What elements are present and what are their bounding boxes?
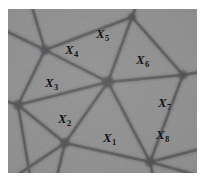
micrograph-image-area: X1X2X3X4X5X6X7X8 bbox=[8, 9, 197, 173]
film-grain-texture bbox=[8, 9, 197, 173]
grain-micrograph-figure: X1X2X3X4X5X6X7X8 bbox=[0, 0, 211, 178]
grain-boundary-network bbox=[8, 9, 197, 173]
